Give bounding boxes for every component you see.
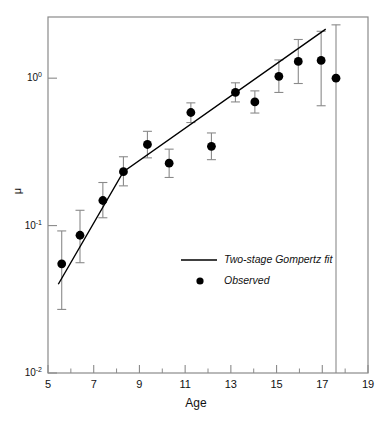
y-tick-label: 10-1 bbox=[6, 219, 42, 231]
data-point bbox=[332, 74, 341, 83]
data-point bbox=[294, 57, 303, 66]
y-tick-label: 10-2 bbox=[6, 366, 42, 378]
data-point bbox=[317, 56, 326, 65]
fit-line bbox=[58, 29, 325, 284]
y-tick-label: 100 bbox=[6, 71, 42, 83]
x-tick-label: 15 bbox=[267, 378, 287, 390]
data-point bbox=[98, 196, 107, 205]
x-tick-label: 19 bbox=[358, 378, 378, 390]
x-tick-label: 13 bbox=[221, 378, 241, 390]
data-point bbox=[231, 88, 240, 97]
chart-figure: μ Age 10010-110-2 5791113151719 Two-stag… bbox=[0, 0, 392, 421]
legend-label-observed: Observed bbox=[224, 274, 270, 286]
axis-ticks bbox=[48, 78, 368, 373]
data-point bbox=[57, 259, 66, 268]
x-axis-title: Age bbox=[0, 396, 392, 410]
data-point bbox=[143, 140, 152, 149]
x-tick-label: 5 bbox=[38, 378, 58, 390]
data-point bbox=[274, 72, 283, 81]
data-point bbox=[119, 167, 128, 176]
y-axis-title: μ bbox=[11, 188, 23, 194]
legend-label-fit: Two-stage Gompertz fit bbox=[224, 253, 332, 265]
legend-dot-swatch bbox=[196, 277, 203, 284]
x-tick-label: 17 bbox=[312, 378, 332, 390]
data-points bbox=[57, 56, 340, 268]
data-point bbox=[207, 142, 216, 151]
plot-frame bbox=[48, 17, 368, 373]
data-point bbox=[76, 231, 85, 240]
x-tick-label: 7 bbox=[84, 378, 104, 390]
chart-plot-area bbox=[0, 0, 392, 421]
data-point bbox=[250, 98, 259, 107]
x-tick-label: 11 bbox=[175, 378, 195, 390]
x-tick-label: 9 bbox=[129, 378, 149, 390]
data-point bbox=[165, 159, 174, 168]
data-point bbox=[186, 108, 195, 117]
